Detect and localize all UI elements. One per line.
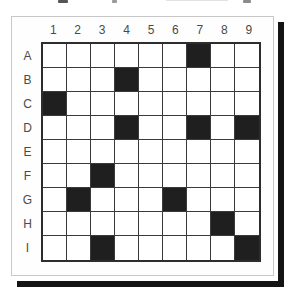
grid-cell-F5[interactable] — [139, 164, 163, 188]
grid-cell-B4[interactable] — [115, 68, 139, 92]
grid-cell-E4[interactable] — [115, 140, 139, 164]
row-labels: ABCDEFGHI — [14, 44, 41, 260]
grid-cell-G6[interactable] — [163, 188, 187, 212]
grid-cell-A7[interactable] — [187, 44, 211, 68]
column-label-8: 8 — [212, 19, 236, 41]
grid-cell-G2[interactable] — [67, 188, 91, 212]
coordinate-grid — [41, 42, 261, 262]
grid-cell-A8[interactable] — [211, 44, 235, 68]
column-label-1: 1 — [41, 19, 65, 41]
row-label-I: I — [14, 236, 41, 260]
column-label-4: 4 — [114, 19, 138, 41]
cropped-text-fragment — [243, 0, 251, 3]
column-label-2: 2 — [65, 19, 89, 41]
grid-cell-B8[interactable] — [211, 68, 235, 92]
grid-cell-G4[interactable] — [115, 188, 139, 212]
grid-cell-G1[interactable] — [43, 188, 67, 212]
grid-cell-H1[interactable] — [43, 212, 67, 236]
grid-cell-A9[interactable] — [235, 44, 259, 68]
grid-cell-A2[interactable] — [67, 44, 91, 68]
grid-cell-D6[interactable] — [163, 116, 187, 140]
grid-cell-C8[interactable] — [211, 92, 235, 116]
grid-cell-G7[interactable] — [187, 188, 211, 212]
grid-cell-C2[interactable] — [67, 92, 91, 116]
grid-cell-B6[interactable] — [163, 68, 187, 92]
grid-cell-I3[interactable] — [91, 236, 115, 260]
row-label-H: H — [14, 212, 41, 236]
row-label-D: D — [14, 116, 41, 140]
grid-cell-H7[interactable] — [187, 212, 211, 236]
column-label-9: 9 — [237, 19, 261, 41]
grid-cell-E7[interactable] — [187, 140, 211, 164]
grid-cell-B3[interactable] — [91, 68, 115, 92]
grid-cell-D5[interactable] — [139, 116, 163, 140]
grid-cell-H5[interactable] — [139, 212, 163, 236]
grid-cell-E2[interactable] — [67, 140, 91, 164]
grid-cell-C3[interactable] — [91, 92, 115, 116]
grid-cell-E3[interactable] — [91, 140, 115, 164]
grid-cell-I9[interactable] — [235, 236, 259, 260]
grid-cell-F2[interactable] — [67, 164, 91, 188]
grid-cell-C7[interactable] — [187, 92, 211, 116]
grid-cell-C9[interactable] — [235, 92, 259, 116]
grid-cell-B9[interactable] — [235, 68, 259, 92]
grid-cell-E5[interactable] — [139, 140, 163, 164]
grid-cell-C1[interactable] — [43, 92, 67, 116]
grid-cell-A4[interactable] — [115, 44, 139, 68]
grid-cell-G5[interactable] — [139, 188, 163, 212]
grid-cell-H3[interactable] — [91, 212, 115, 236]
grid-cell-H8[interactable] — [211, 212, 235, 236]
grid-cell-E8[interactable] — [211, 140, 235, 164]
grid-cell-G9[interactable] — [235, 188, 259, 212]
grid-cell-I6[interactable] — [163, 236, 187, 260]
grid-cell-E1[interactable] — [43, 140, 67, 164]
grid-cell-H4[interactable] — [115, 212, 139, 236]
grid-cell-B2[interactable] — [67, 68, 91, 92]
column-label-7: 7 — [188, 19, 212, 41]
grid-cell-A5[interactable] — [139, 44, 163, 68]
grid-cell-D7[interactable] — [187, 116, 211, 140]
grid-cell-D3[interactable] — [91, 116, 115, 140]
grid-cell-H6[interactable] — [163, 212, 187, 236]
grid-cell-I8[interactable] — [211, 236, 235, 260]
grid-cell-B1[interactable] — [43, 68, 67, 92]
panel-shadow-right — [278, 22, 284, 287]
grid-cell-F6[interactable] — [163, 164, 187, 188]
grid-cell-D1[interactable] — [43, 116, 67, 140]
grid-cell-F8[interactable] — [211, 164, 235, 188]
panel-shadow-bottom — [17, 281, 284, 287]
grid-cell-I2[interactable] — [67, 236, 91, 260]
column-label-3: 3 — [90, 19, 114, 41]
grid-cell-A6[interactable] — [163, 44, 187, 68]
grid-cell-F7[interactable] — [187, 164, 211, 188]
grid-cell-F1[interactable] — [43, 164, 67, 188]
grid-cell-A3[interactable] — [91, 44, 115, 68]
grid-cell-D9[interactable] — [235, 116, 259, 140]
grid-cell-I5[interactable] — [139, 236, 163, 260]
grid-cell-H9[interactable] — [235, 212, 259, 236]
grid-cell-D8[interactable] — [211, 116, 235, 140]
grid-cell-E6[interactable] — [163, 140, 187, 164]
grid-cell-E9[interactable] — [235, 140, 259, 164]
grid-cell-F9[interactable] — [235, 164, 259, 188]
grid-cell-D2[interactable] — [67, 116, 91, 140]
grid-cell-F3[interactable] — [91, 164, 115, 188]
row-label-E: E — [14, 140, 41, 164]
grid-cell-H2[interactable] — [67, 212, 91, 236]
grid-cell-I4[interactable] — [115, 236, 139, 260]
row-label-G: G — [14, 188, 41, 212]
grid-cell-C4[interactable] — [115, 92, 139, 116]
grid-cell-F4[interactable] — [115, 164, 139, 188]
grid-cell-C5[interactable] — [139, 92, 163, 116]
column-labels: 123456789 — [41, 19, 261, 41]
grid-cell-I1[interactable] — [43, 236, 67, 260]
grid-cell-A1[interactable] — [43, 44, 67, 68]
grid-cell-I7[interactable] — [187, 236, 211, 260]
grid-cell-G8[interactable] — [211, 188, 235, 212]
grid-cell-B5[interactable] — [139, 68, 163, 92]
grid-cell-G3[interactable] — [91, 188, 115, 212]
grid-cell-B7[interactable] — [187, 68, 211, 92]
row-label-F: F — [14, 164, 41, 188]
grid-cell-C6[interactable] — [163, 92, 187, 116]
grid-cell-D4[interactable] — [115, 116, 139, 140]
